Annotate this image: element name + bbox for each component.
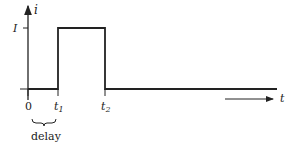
tick-label-t1: t1 <box>54 100 64 114</box>
delay-label: delay <box>31 130 62 143</box>
tick-label-t2: t2 <box>101 100 111 114</box>
x-axis-label: t <box>280 92 285 105</box>
pulse-diagram: i I 0 t1 t2 t delay <box>0 0 296 153</box>
pulse-waveform <box>28 28 277 89</box>
y-axis-label: i <box>34 3 38 17</box>
tick-label-origin: 0 <box>25 100 32 113</box>
delay-brace <box>32 119 56 126</box>
level-label: I <box>12 22 18 35</box>
